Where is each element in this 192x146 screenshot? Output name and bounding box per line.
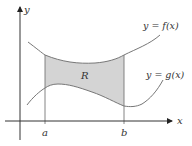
y-axis-label: y — [23, 4, 30, 15]
region-label: R — [80, 70, 89, 81]
bound-a-label: a — [42, 127, 48, 138]
x-axis-label: x — [177, 115, 183, 126]
bound-b-label: b — [121, 127, 127, 138]
curve-g-label: y = g(x) — [145, 69, 185, 80]
area-between-curves-diagram: y x y = f(x) y = g(x) R a b — [0, 0, 192, 146]
curve-f-label: y = f(x) — [142, 20, 179, 31]
